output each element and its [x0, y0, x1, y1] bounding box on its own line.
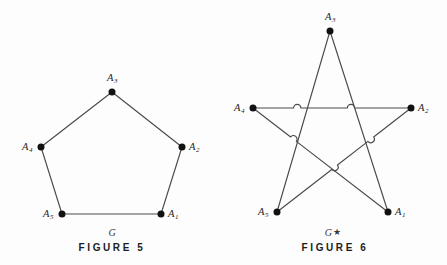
- graph-edge: [253, 108, 388, 212]
- graph-edge: [277, 108, 411, 212]
- vertex-label-a4: A4: [234, 103, 244, 114]
- star-icon: ★: [332, 227, 342, 237]
- vertex-label-a1: A1: [395, 207, 405, 218]
- vertex-label-a2: A2: [418, 103, 428, 114]
- graph-edge: [330, 31, 388, 212]
- graph-edge: [253, 104, 411, 108]
- graph-vertex-a5: [274, 209, 281, 216]
- graph-vertex-a2: [408, 105, 415, 112]
- graph-vertex-a1: [385, 209, 392, 216]
- figure-6-graph: [0, 0, 447, 265]
- graph-edge: [277, 31, 330, 212]
- figure-page: A1A2A3A4A5GFIGURE 5A1A2A3A4A5G★FIGURE 6: [0, 0, 447, 265]
- figure-6-graph-name: G★: [325, 228, 342, 238]
- figure-6-caption: FIGURE 6: [302, 243, 369, 253]
- vertex-label-a3: A3: [325, 12, 335, 23]
- graph-vertex-a4: [250, 105, 257, 112]
- graph-vertex-a3: [327, 28, 334, 35]
- vertex-label-a5: A5: [258, 207, 268, 218]
